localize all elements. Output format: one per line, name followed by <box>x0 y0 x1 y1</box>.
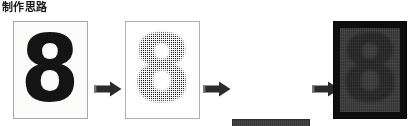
process-pipeline: 8 8 8 <box>0 19 417 121</box>
stage-panel-framed: 8 <box>333 21 407 119</box>
glyph-container: 8 <box>340 28 400 112</box>
numeral-glyph: 8 <box>21 24 80 116</box>
glyph-container: 8 <box>126 22 199 118</box>
arrow-right-shape <box>94 81 122 97</box>
numeral-glyph: 8 <box>341 28 400 112</box>
stage-panel-darkened: 8 <box>232 119 310 126</box>
arrow-right-shape <box>203 81 231 97</box>
page-title: 制作思路 <box>2 0 47 14</box>
stage-panel-halftone: 8 <box>125 21 200 119</box>
numeral-glyph: 8 <box>242 122 301 126</box>
stage-panel-original: 8 <box>13 21 88 119</box>
numeral-glyph: 8 <box>133 24 192 116</box>
arrow-right-icon <box>203 81 231 97</box>
arrow-right-icon <box>94 81 122 97</box>
glyph-container: 8 <box>14 22 87 118</box>
framed-inner-image: 8 <box>340 28 400 112</box>
glyph-container: 8 <box>233 120 309 126</box>
